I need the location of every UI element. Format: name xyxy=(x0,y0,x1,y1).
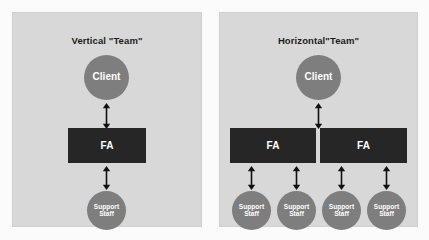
team-structure-diagram: Vertical "Team" Client FA xyxy=(0,0,429,240)
panel-horizontal-team: Horizontal"Team" Client FA FA xyxy=(220,13,417,226)
horizontal-connector-fa2-to-support-3 xyxy=(337,166,346,190)
vertical-connector-client-to-fa xyxy=(102,103,111,129)
horizontal-support-staff-node-1: Support Staff xyxy=(232,191,271,230)
horizontal-support-staff-node-4: Support Staff xyxy=(367,191,406,230)
horizontal-support-staff-node-2: Support Staff xyxy=(277,191,316,230)
panel-vertical-title: Vertical "Team" xyxy=(13,35,201,46)
vertical-fa-box: FA xyxy=(68,128,146,163)
horizontal-connector-fa1-to-support-2 xyxy=(292,166,301,190)
vertical-client-node: Client xyxy=(84,55,129,100)
horizontal-fa-box-1: FA xyxy=(230,128,316,163)
vertical-connector-fa-to-support xyxy=(102,166,111,190)
panel-horizontal-title: Horizontal"Team" xyxy=(220,35,417,46)
horizontal-client-label: Client xyxy=(305,72,333,83)
horizontal-support-staff-4-line2: Staff xyxy=(379,211,394,218)
horizontal-support-staff-node-3: Support Staff xyxy=(322,191,361,230)
horizontal-fa-box-2: FA xyxy=(320,128,407,163)
horizontal-support-staff-1-line2: Staff xyxy=(244,211,259,218)
vertical-client-label: Client xyxy=(93,72,121,83)
horizontal-connector-fa2-to-support-4 xyxy=(382,166,391,190)
horizontal-support-staff-2-line2: Staff xyxy=(289,211,304,218)
horizontal-fa-label-2: FA xyxy=(357,140,370,151)
horizontal-connector-fa1-to-support-1 xyxy=(247,166,256,190)
horizontal-connector-client-to-fa xyxy=(314,103,323,129)
vertical-support-staff-label-line2: Staff xyxy=(99,211,114,218)
horizontal-client-node: Client xyxy=(296,55,341,100)
horizontal-support-staff-3-line2: Staff xyxy=(334,211,349,218)
horizontal-fa-label-1: FA xyxy=(267,140,280,151)
panel-vertical-team: Vertical "Team" Client FA xyxy=(13,13,201,226)
vertical-support-staff-node: Support Staff xyxy=(87,191,126,230)
vertical-fa-label: FA xyxy=(101,140,114,151)
